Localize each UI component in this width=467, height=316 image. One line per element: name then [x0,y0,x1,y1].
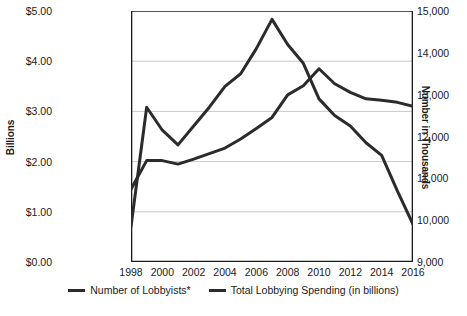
x-axis-tick-label: 2016 [390,266,436,278]
legend-label: Number of Lobbyists* [90,284,190,296]
y-axis-left-tick-label: $4.00 [6,56,52,66]
chart-legend: Number of Lobbyists*Total Lobbying Spend… [0,284,467,296]
y-axis-left-tick-label: $5.00 [6,6,52,16]
plot-svg [131,11,413,262]
y-axis-left-tick-label: $1.00 [6,207,52,217]
y-axis-right-tick-label: 15,000 [417,6,465,16]
lobbying-line-chart: Billions Number in Thousands $0.00$1.00$… [0,0,467,316]
y-axis-right-tick-label: 12,000 [417,132,465,142]
series-line [131,69,413,189]
y-axis-left-tick-label: $3.00 [6,106,52,116]
y-axis-right-tick-label: 10,000 [417,215,465,225]
legend-line-swatch-icon [209,289,226,292]
plot-area [131,11,413,262]
legend-label: Total Lobbying Spending (in billions) [231,284,399,296]
legend-item: Total Lobbying Spending (in billions) [209,284,399,296]
y-axis-left-tick-label: $2.00 [6,157,52,167]
y-axis-right-tick-label: 14,000 [417,48,465,58]
x-axis-ticks: 1998200020022004200620082010201220142016 [0,266,467,282]
legend-line-swatch-icon [68,289,85,292]
series-line [131,19,413,226]
legend-item: Number of Lobbyists* [68,284,190,296]
y-axis-right-tick-label: 13,000 [417,90,465,100]
y-axis-right-tick-label: 11,000 [417,173,465,183]
